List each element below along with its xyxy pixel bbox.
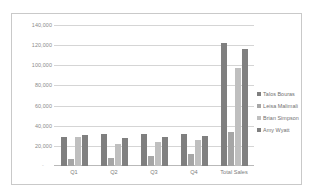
legend-item[interactable]: Talos Bouras xyxy=(257,88,314,100)
legend-swatch-icon xyxy=(257,116,261,120)
x-axis-tick-label: Q2 xyxy=(110,169,117,175)
legend-item[interactable]: Leisa Malimali xyxy=(257,100,314,112)
y-axis-tick-label: 40,000 xyxy=(14,123,52,129)
legend-item-label: Brian Simpson xyxy=(263,115,299,121)
y-axis-zero-label: - xyxy=(42,162,44,168)
y-axis-tick-label: 100,000 xyxy=(14,62,52,68)
chart-legend[interactable]: Talos BourasLeisa MalimaliBrian SimpsonA… xyxy=(257,88,314,136)
chart-frame[interactable]: 140,000120,000100,00080,00060,00040,0002… xyxy=(11,13,302,185)
x-axis-tick-label: Q3 xyxy=(150,169,157,175)
x-axis-tick-label: Total Sales xyxy=(220,169,247,175)
legend-item-label: Talos Bouras xyxy=(263,91,295,97)
y-axis-tick-label: 20,000 xyxy=(14,143,52,149)
y-axis-tick-label: 140,000 xyxy=(14,22,52,28)
legend-swatch-icon xyxy=(257,128,261,132)
x-axis-tick-label: Q1 xyxy=(70,169,77,175)
x-axis: Q1Q2Q3Q4Total Sales xyxy=(54,14,254,186)
legend-swatch-icon xyxy=(257,104,261,108)
y-axis-tick-label: 120,000 xyxy=(14,42,52,48)
legend-item-label: Amy Wyatt xyxy=(263,127,289,133)
legend-swatch-icon xyxy=(257,92,261,96)
legend-item[interactable]: Brian Simpson xyxy=(257,112,314,124)
y-axis: 140,000120,000100,00080,00060,00040,0002… xyxy=(12,25,52,166)
legend-item-label: Leisa Malimali xyxy=(263,103,298,109)
x-axis-tick-label: Q4 xyxy=(190,169,197,175)
y-axis-tick-label: 80,000 xyxy=(14,82,52,88)
y-axis-tick-label: 60,000 xyxy=(14,103,52,109)
legend-item[interactable]: Amy Wyatt xyxy=(257,124,314,136)
